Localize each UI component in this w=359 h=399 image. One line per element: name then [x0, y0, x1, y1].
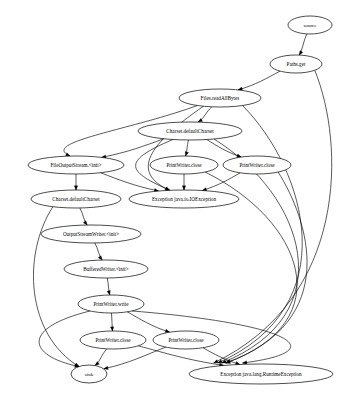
node-shape-sink[interactable] [71, 365, 107, 383]
arrowhead-icon [107, 291, 110, 295]
arrowhead-icon [66, 153, 71, 156]
node-shape-osw[interactable] [41, 225, 141, 243]
arrowhead-icon [218, 360, 223, 363]
node-shape-fos[interactable] [28, 156, 124, 174]
node-shape-pwclose2[interactable] [223, 156, 291, 174]
graph-edge-pwwrite-to-pwclose4 [127, 312, 169, 332]
graph-node-source[interactable]: source [288, 16, 332, 34]
arrowhead-icon [83, 221, 87, 225]
arrowhead-icon [182, 186, 185, 190]
graph-node-ioexc[interactable]: Exception java.io.IOException [129, 190, 239, 208]
arrowhead-icon [165, 187, 170, 190]
graph-edge-readall-to-ioexc [148, 106, 203, 190]
nodes-layer: sourcePaths.getFiles.readAllBytesCharset… [28, 16, 333, 384]
graph-node-pwclose4[interactable]: PrintWriter.close [153, 331, 219, 349]
graph-node-charset1[interactable]: Charset.defaultCharset [138, 122, 242, 140]
graph-edge-pwclose4-to-sink [104, 347, 166, 369]
node-shape-pathsget[interactable] [270, 55, 322, 73]
graph-node-pathsget[interactable]: Paths.get [270, 55, 322, 73]
node-shape-source[interactable] [288, 16, 332, 34]
node-shape-pwclose4[interactable] [153, 331, 219, 349]
graph-edge-pathsget-to-rtexc [214, 70, 332, 363]
graph-node-sink[interactable]: sink [71, 365, 107, 383]
graph-node-pwwrite[interactable]: PrintWriter.write [78, 295, 144, 313]
graph-node-pwclose1[interactable]: PrintWriter.close [150, 156, 218, 174]
node-shape-pwclose3[interactable] [80, 331, 146, 349]
graph-node-fos[interactable]: FileOutputStream.<init> [28, 156, 124, 174]
arrowhead-icon [98, 256, 102, 260]
node-shape-charset1[interactable] [138, 122, 242, 140]
node-shape-pwclose1[interactable] [150, 156, 218, 174]
graph-node-rtexc[interactable]: Exception java.lang.RuntimeException [189, 364, 333, 384]
node-shape-bw[interactable] [64, 260, 148, 278]
node-shape-charset2[interactable] [31, 190, 121, 208]
graph-node-osw[interactable]: OutputStreamWriter.<init> [41, 225, 141, 243]
arrowhead-icon [242, 361, 246, 364]
graph-node-charset2[interactable]: Charset.defaultCharset [31, 190, 121, 208]
graph-edge-readall-to-rtexc [218, 106, 302, 363]
graph-node-pwclose3[interactable]: PrintWriter.close [80, 331, 146, 349]
graph-edge-pwclose2-to-ioexc [202, 173, 240, 191]
arrowhead-icon [110, 327, 113, 331]
graph-node-readall[interactable]: Files.readAllBytes [179, 89, 261, 107]
node-shape-ioexc[interactable] [129, 190, 239, 208]
graph-edge-fos-to-ioexc [101, 173, 159, 191]
graph-canvas: sourcePaths.getFiles.readAllBytesCharset… [0, 0, 359, 399]
graph-edge-pathsget-to-readall [238, 71, 280, 90]
arrowhead-icon [95, 362, 99, 366]
node-shape-pwwrite[interactable] [78, 295, 144, 313]
node-shape-readall[interactable] [179, 89, 261, 107]
arrowhead-icon [214, 360, 219, 363]
arrowhead-icon [185, 151, 188, 156]
graph-node-bw[interactable]: BufferedWriter.<init> [64, 260, 148, 278]
graph-container: sourcePaths.getFiles.readAllBytesCharset… [0, 0, 359, 399]
arrowhead-icon [74, 186, 77, 190]
graph-node-pwclose2[interactable]: PrintWriter.close [223, 156, 291, 174]
node-shape-rtexc[interactable] [189, 364, 333, 384]
arrowhead-icon [299, 51, 303, 55]
